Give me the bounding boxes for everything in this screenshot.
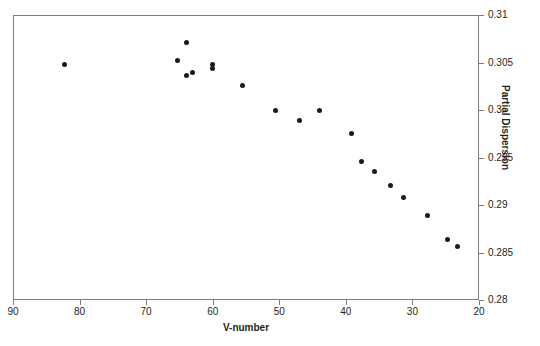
x-axis-tick-label: 30 [407, 306, 418, 318]
x-axis-tick-label: 80 [74, 306, 85, 318]
y-axis-tick-label: 0.305 [488, 57, 513, 69]
x-axis-tick-label: 70 [141, 306, 152, 318]
x-axis-tick [80, 300, 81, 305]
y-axis-tick [479, 110, 484, 111]
y-axis-tick [479, 158, 484, 159]
x-axis-tick-label: 60 [207, 306, 218, 318]
y-axis-tick [479, 300, 484, 301]
x-axis-tick-label: 40 [340, 306, 351, 318]
y-axis-tick-label: 0.285 [488, 247, 513, 259]
x-axis-title: V-number [13, 322, 479, 333]
y-axis-title: Partial Dispersion [500, 85, 511, 170]
y-axis-tick-label: 0.29 [488, 199, 507, 211]
y-axis-tick [479, 205, 484, 206]
y-axis-tick-label: 0.28 [488, 294, 507, 306]
y-axis-tick [479, 15, 484, 16]
x-axis-tick [412, 300, 413, 305]
x-axis-tick-label: 20 [473, 306, 484, 318]
y-axis-tick-label: 0.31 [488, 9, 507, 21]
scatter-chart: 90807060504030200.280.2850.290.2950.30.3… [0, 0, 540, 346]
y-axis-tick [479, 253, 484, 254]
x-axis-tick [13, 300, 14, 305]
x-axis-tick [279, 300, 280, 305]
x-axis-tick-label: 50 [274, 306, 285, 318]
x-axis-tick-label: 90 [7, 306, 18, 318]
y-axis-tick [479, 63, 484, 64]
x-axis-tick [213, 300, 214, 305]
x-axis-tick [146, 300, 147, 305]
plot-area-frame [13, 15, 479, 300]
x-axis-tick [346, 300, 347, 305]
